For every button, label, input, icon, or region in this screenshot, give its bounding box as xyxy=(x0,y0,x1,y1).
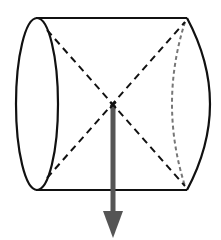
weight-arrow-shaft xyxy=(111,105,116,213)
cylinder-right-face-arc xyxy=(187,18,210,190)
diagonal-dashed-2 xyxy=(47,22,185,178)
weight-arrow-head xyxy=(103,211,123,238)
cylinder-diagram xyxy=(0,0,221,240)
cylinder-left-face xyxy=(16,18,58,190)
cylinder-hidden-edge xyxy=(172,22,185,186)
